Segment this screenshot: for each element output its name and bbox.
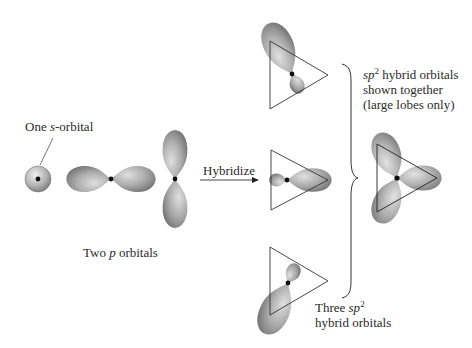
p-orbital-horizontal bbox=[66, 166, 155, 192]
three-sp2-label: Three sp2 hybrid orbitals bbox=[315, 300, 391, 330]
p-orbital-vertical bbox=[163, 130, 188, 228]
p-orbitals-label: Two p orbitals bbox=[83, 245, 158, 260]
three-sp2-line2: hybrid orbitals bbox=[315, 315, 391, 330]
s-orbital bbox=[25, 138, 53, 192]
sp2-together-line2: shown together bbox=[363, 82, 459, 97]
sp2-hybrid-top bbox=[255, 17, 328, 109]
hybridize-label: Hybridize bbox=[203, 163, 255, 178]
sp2-together-line3: (large lobes only) bbox=[363, 97, 459, 112]
sp2-hybrid-middle bbox=[269, 150, 331, 210]
sp2-together-line1: sp2 hybrid orbitals bbox=[363, 67, 459, 82]
three-sp2-line1: Three sp2 bbox=[315, 300, 391, 315]
sp2-hybridization-diagram: One s-orbital Two p orbitals Hybridize s… bbox=[0, 0, 472, 348]
grouping-brace bbox=[342, 64, 358, 298]
sp2-combined bbox=[366, 128, 441, 228]
s-orbital-label: One s-orbital bbox=[25, 119, 93, 134]
sp2-together-label: sp2 hybrid orbitals shown together (larg… bbox=[363, 67, 459, 112]
s-orbital-leader-line bbox=[40, 138, 53, 165]
